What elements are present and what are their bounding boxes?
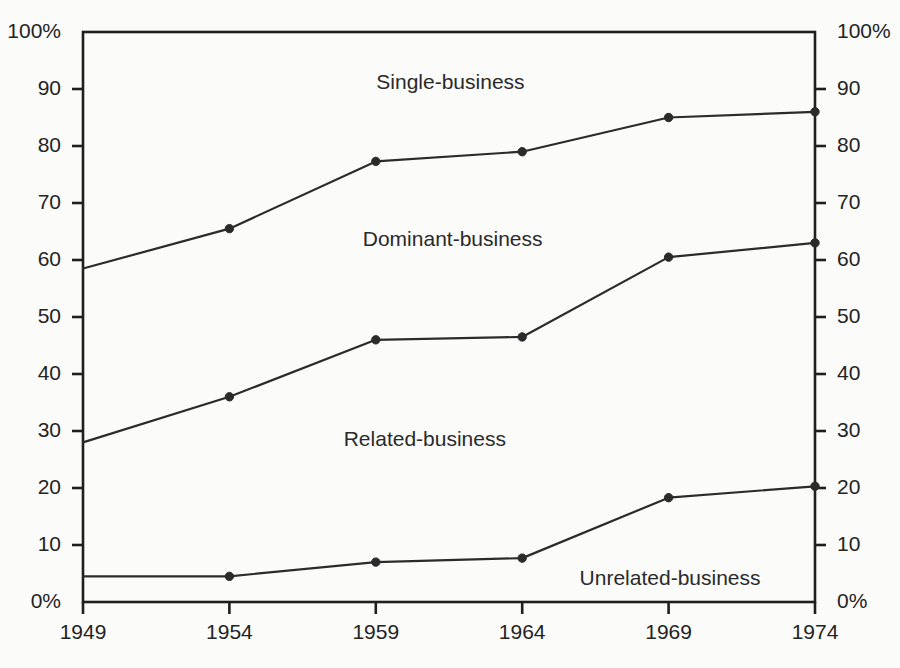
y-axis-left-tick-50: 50 [0,304,61,328]
x-axis-tick-1954: 1954 [169,620,289,644]
y-axis-right-tick-20: 20 [837,475,860,499]
y-axis-right-tick-30: 30 [837,418,860,442]
y-axis-left-tick-0: 0% [0,589,61,613]
y-axis-left-tick-80: 80 [0,133,61,157]
series-annotation-unrelated-business: Unrelated-business [500,566,840,590]
series-markers [225,108,819,581]
y-axis-right-tick-40: 40 [837,361,860,385]
x-axis-tick-1964: 1964 [462,620,582,644]
y-axis-left-tick-40: 40 [0,361,61,385]
y-axis-left-tick-20: 20 [0,475,61,499]
y-axis-right-tick-0: 0% [837,589,867,613]
y-axis-left-tick-60: 60 [0,247,61,271]
axis-ticks [72,89,826,614]
y-axis-left-tick-90: 90 [0,76,61,100]
chart-container: 100%9080706050403020100% 100%90807060504… [0,0,900,668]
x-axis-tick-1974: 1974 [755,620,875,644]
y-axis-right-tick-90: 90 [837,76,860,100]
plot-frame [83,32,815,602]
y-axis-right-tick-60: 60 [837,247,860,271]
series-annotation-single-business: Single-business [280,70,620,94]
series-lines [83,112,815,577]
x-axis-tick-1969: 1969 [609,620,729,644]
y-axis-right-tick-80: 80 [837,133,860,157]
y-axis-left-tick-10: 10 [0,532,61,556]
x-axis-tick-1959: 1959 [316,620,436,644]
x-axis-tick-1949: 1949 [23,620,143,644]
y-axis-left-tick-70: 70 [0,190,61,214]
y-axis-right-tick-70: 70 [837,190,860,214]
y-axis-left-tick-30: 30 [0,418,61,442]
y-axis-right-tick-100: 100% [837,19,891,43]
y-axis-right-tick-50: 50 [837,304,860,328]
y-axis-right-tick-10: 10 [837,532,860,556]
series-annotation-related-business: Related-business [255,427,595,451]
series-annotation-dominant-business: Dominant-business [283,227,623,251]
y-axis-left-tick-100: 100% [0,19,61,43]
